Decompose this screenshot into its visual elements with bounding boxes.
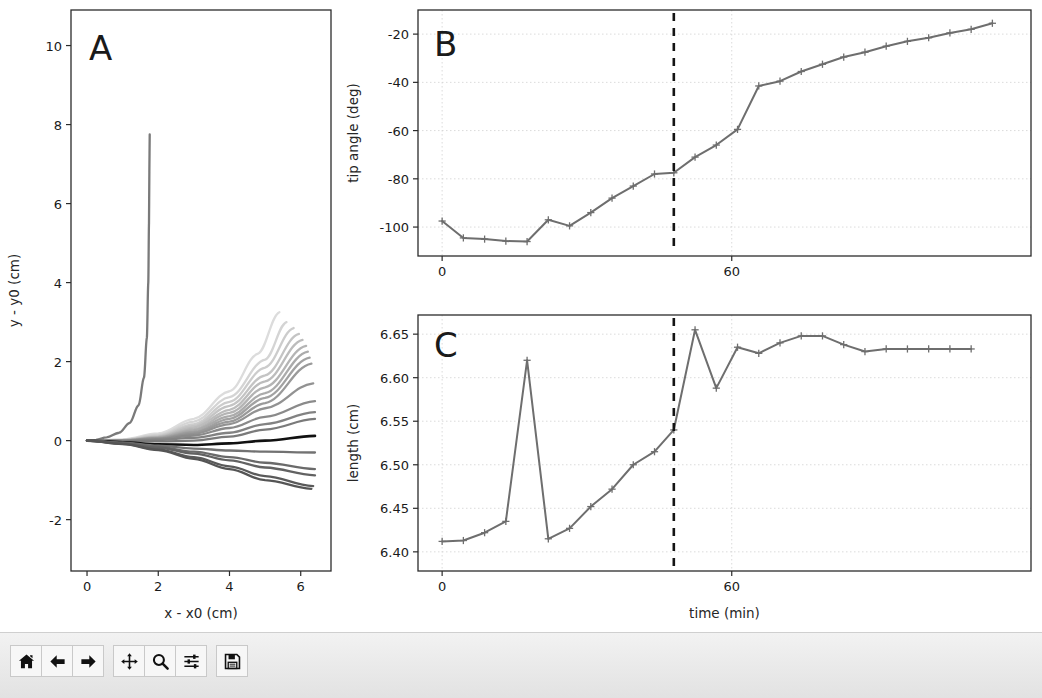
matplotlib-figure: 0246-20246810Ax - x0 (cm)y - y0 (cm)060-… bbox=[0, 0, 1042, 632]
xtick-label: 0 bbox=[438, 264, 446, 279]
matplotlib-navigation-toolbar bbox=[0, 632, 1042, 698]
data-point-marker bbox=[481, 236, 488, 243]
data-point-marker bbox=[883, 345, 890, 352]
ytick-label: 0 bbox=[54, 434, 62, 449]
data-point-marker bbox=[798, 68, 805, 75]
ytick-label: -2 bbox=[49, 513, 62, 528]
xtick-label: 2 bbox=[154, 579, 162, 594]
panel-letter-C: C bbox=[434, 325, 458, 365]
data-point-marker bbox=[545, 535, 552, 542]
data-point-marker bbox=[819, 61, 826, 68]
configure-subplots-button[interactable] bbox=[175, 645, 207, 677]
xtick-label: 60 bbox=[723, 264, 740, 279]
ytick-label: 6.55 bbox=[380, 414, 409, 429]
data-point-marker bbox=[481, 529, 488, 536]
ytick-label: 10 bbox=[45, 39, 62, 54]
toolbar-group-tools bbox=[113, 645, 206, 677]
yaxis-label: length (cm) bbox=[345, 404, 361, 482]
data-point-marker bbox=[755, 350, 762, 357]
data-point-marker bbox=[883, 43, 890, 50]
xtick-label: 0 bbox=[438, 579, 446, 594]
panel-C: 0606.406.456.506.556.606.65Ctime (min)le… bbox=[345, 315, 1031, 621]
data-point-marker bbox=[523, 357, 530, 364]
data-point-marker bbox=[713, 385, 720, 392]
data-point-marker bbox=[968, 345, 975, 352]
ytick-label: 8 bbox=[54, 118, 62, 133]
panel-letter-B: B bbox=[434, 24, 457, 64]
axes-frame bbox=[418, 315, 1031, 571]
data-point-marker bbox=[946, 345, 953, 352]
ytick-label: 4 bbox=[54, 276, 62, 291]
forward-button[interactable] bbox=[72, 645, 104, 677]
data-line bbox=[442, 330, 971, 542]
ytick-label: 6.65 bbox=[380, 327, 409, 342]
panel-A: 0246-20246810Ax - x0 (cm)y - y0 (cm) bbox=[6, 10, 331, 621]
data-point-marker bbox=[840, 53, 847, 60]
data-point-marker bbox=[502, 237, 509, 244]
ytick-label: 6.45 bbox=[380, 501, 409, 516]
data-point-marker bbox=[925, 345, 932, 352]
data-point-marker bbox=[946, 29, 953, 36]
toolbar-group-navigation bbox=[10, 645, 103, 677]
data-point-marker bbox=[776, 339, 783, 346]
data-point-marker bbox=[904, 345, 911, 352]
data-line bbox=[442, 23, 992, 241]
sliders-icon bbox=[182, 652, 201, 671]
data-point-marker bbox=[861, 49, 868, 56]
data-point-marker bbox=[904, 38, 911, 45]
toolbar-group-save bbox=[216, 645, 247, 677]
save-button[interactable] bbox=[216, 645, 248, 677]
floppy-disk-icon bbox=[223, 652, 242, 671]
xaxis-label: x - x0 (cm) bbox=[164, 605, 237, 621]
data-point-marker bbox=[734, 344, 741, 351]
xaxis-label: time (min) bbox=[689, 605, 760, 621]
pan-button[interactable] bbox=[113, 645, 145, 677]
yaxis-label: tip angle (deg) bbox=[345, 83, 361, 183]
axes-frame bbox=[71, 10, 331, 571]
ytick-label: -80 bbox=[388, 172, 409, 187]
home-icon bbox=[17, 652, 36, 671]
data-point-marker bbox=[755, 82, 762, 89]
ytick-label: 6.60 bbox=[380, 371, 409, 386]
back-arrow-icon bbox=[48, 652, 67, 671]
magnifier-icon bbox=[151, 652, 170, 671]
xtick-label: 4 bbox=[225, 579, 233, 594]
data-point-marker bbox=[460, 537, 467, 544]
pan-move-icon bbox=[120, 652, 139, 671]
data-point-marker bbox=[798, 332, 805, 339]
data-point-marker bbox=[840, 341, 847, 348]
data-point-marker bbox=[819, 332, 826, 339]
ytick-label: -20 bbox=[388, 27, 409, 42]
xtick-label: 0 bbox=[83, 579, 91, 594]
panel-letter-A: A bbox=[89, 28, 112, 68]
data-point-marker bbox=[925, 34, 932, 41]
yaxis-label: y - y0 (cm) bbox=[6, 254, 22, 327]
figure-canvas: 0246-20246810Ax - x0 (cm)y - y0 (cm)060-… bbox=[0, 0, 1042, 632]
forward-arrow-icon bbox=[79, 652, 98, 671]
data-point-marker bbox=[776, 78, 783, 85]
data-point-marker bbox=[861, 348, 868, 355]
ytick-label: 6.50 bbox=[380, 458, 409, 473]
ytick-label: -100 bbox=[379, 220, 409, 235]
data-curve bbox=[87, 134, 150, 440]
ytick-label: -40 bbox=[388, 75, 409, 90]
ytick-label: -60 bbox=[388, 124, 409, 139]
zoom-button[interactable] bbox=[144, 645, 176, 677]
data-point-marker bbox=[968, 26, 975, 33]
xtick-label: 6 bbox=[297, 579, 305, 594]
ytick-label: 2 bbox=[54, 355, 62, 370]
panel-B: 060-100-80-60-40-20Btip angle (deg) bbox=[345, 10, 1031, 279]
data-point-marker bbox=[439, 538, 446, 545]
xtick-label: 60 bbox=[723, 579, 740, 594]
data-point-marker bbox=[691, 326, 698, 333]
axes-frame bbox=[418, 10, 1031, 256]
ytick-label: 6 bbox=[54, 197, 62, 212]
home-button[interactable] bbox=[10, 645, 42, 677]
data-point-marker bbox=[502, 518, 509, 525]
back-button[interactable] bbox=[41, 645, 73, 677]
data-point-marker bbox=[989, 20, 996, 27]
ytick-label: 6.40 bbox=[380, 545, 409, 560]
